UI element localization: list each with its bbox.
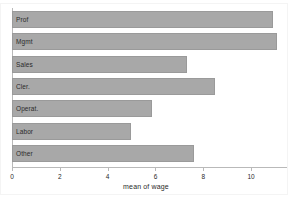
x-axis-title: mean of wage <box>0 183 292 190</box>
bar-row: Other <box>12 145 287 162</box>
bar-category-label: Labor <box>16 123 33 140</box>
x-tick-mark <box>60 167 61 171</box>
bar-row: Cler. <box>12 78 287 95</box>
bar-row: Sales <box>12 56 287 73</box>
bar <box>12 11 273 28</box>
bar <box>12 56 187 73</box>
x-tick-label: 4 <box>98 172 118 181</box>
x-tick-label: 0 <box>2 172 22 181</box>
x-tick-label: 8 <box>193 172 213 181</box>
bar <box>12 78 215 95</box>
bar-category-label: Sales <box>16 56 33 73</box>
bar <box>12 33 277 50</box>
x-tick-mark <box>12 167 13 171</box>
bar-category-label: Other <box>16 145 33 162</box>
x-tick-label: 2 <box>50 172 70 181</box>
bar-row: Operat. <box>12 100 287 117</box>
x-tick-mark <box>155 167 156 171</box>
bar-category-label: Operat. <box>16 100 38 117</box>
bar-category-label: Prof <box>16 11 28 28</box>
x-tick-mark <box>108 167 109 171</box>
x-tick-label: 10 <box>241 172 261 181</box>
x-tick-label: 6 <box>145 172 165 181</box>
bar <box>12 145 194 162</box>
bar-category-label: Cler. <box>16 78 30 95</box>
x-tick-mark <box>251 167 252 171</box>
bar-row: Mgmt <box>12 33 287 50</box>
bar-category-label: Mgmt <box>16 33 33 50</box>
bar-row: Prof <box>12 11 287 28</box>
bar-row: Labor <box>12 123 287 140</box>
x-axis-line <box>12 167 287 168</box>
bar-chart: ProfMgmtSalesCler.Operat.LaborOther 0246… <box>0 0 292 198</box>
x-tick-mark <box>203 167 204 171</box>
